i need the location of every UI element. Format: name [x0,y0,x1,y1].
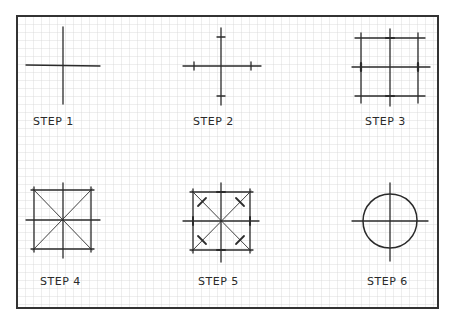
step-label: STEP 2 [193,115,234,128]
grid-paper [17,16,438,308]
step-label: STEP 3 [365,115,406,128]
step-label: STEP 5 [198,275,239,288]
step-label: STEP 1 [33,115,74,128]
step-label: STEP 4 [40,275,81,288]
step-label: STEP 6 [367,275,408,288]
circle-sketching-steps-diagram: STEP 1 STEP 2 STEP 3 STEP 4 STEP 5 STEP … [0,0,452,319]
